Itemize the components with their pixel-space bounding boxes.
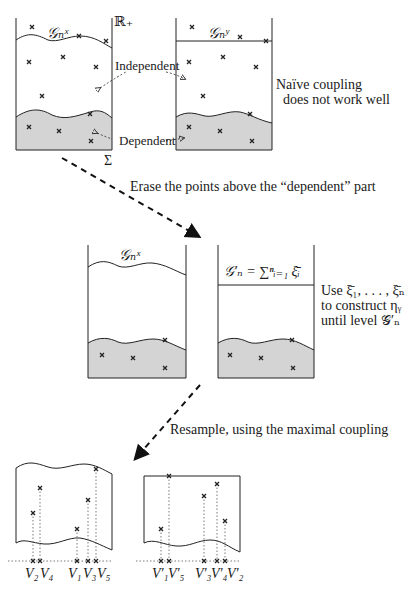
axis-label: ℝ₊	[114, 14, 133, 29]
gx-label-2: 𝒢ₙˣ	[119, 248, 140, 263]
use-note-line2: to construct ηᵧ	[321, 298, 401, 313]
gy-label: 𝒢ₙʸ	[208, 26, 229, 41]
use-note-line3: until level 𝒢′ₙ	[321, 313, 400, 328]
gprime-formula: 𝒢′ₙ = ∑ⁿᵢ₌₁ ξ̄ᵢ	[224, 264, 300, 279]
v-label: V₂	[25, 566, 38, 581]
vprime-label: V′₁	[152, 566, 168, 581]
v-label: V₄	[40, 566, 53, 581]
gx-label-1: 𝒢ₙˣ	[47, 26, 68, 41]
use-note-line1: Use ξ̄₁, . . . , ξ̄ₙ	[321, 283, 405, 298]
vprime-label: V′₅	[168, 566, 184, 581]
v-label: V₁	[68, 566, 81, 581]
panel3-left-box	[8, 463, 112, 563]
panel2-left-box	[88, 245, 186, 378]
independent-label: Independent	[115, 58, 179, 73]
naive-note-line2: does not work well	[283, 92, 390, 107]
panel3-right-box	[136, 474, 240, 563]
vprime-label: V′₃	[195, 566, 211, 581]
v-label: V₅	[97, 566, 110, 581]
vprime-label: V′₂	[227, 566, 243, 581]
naive-note-line1: Naïve coupling	[276, 77, 362, 92]
v-label: V₃	[83, 566, 96, 581]
erase-caption: Erase the points above the “dependent” p…	[130, 179, 376, 194]
vprime-label: V′₄	[211, 566, 227, 581]
dependent-label: Dependent	[119, 133, 175, 148]
shaded-region	[16, 110, 112, 150]
sigma-label: Σ	[104, 153, 112, 168]
resample-caption: Resample, using the maximal coupling	[170, 422, 388, 437]
